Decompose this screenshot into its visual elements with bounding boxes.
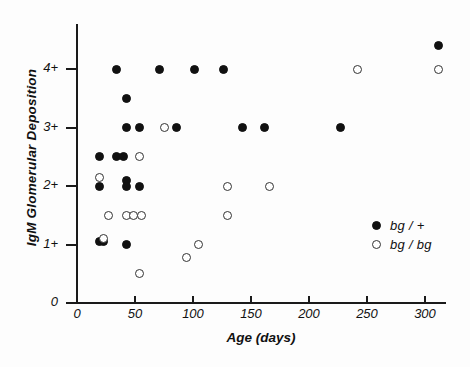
data-point-bg-plus [122,123,131,132]
legend: bg / + bg / bg [372,216,458,254]
y-tick-label: 0 [30,295,58,308]
x-tick-label: 100 [173,307,213,320]
legend-item-bg-plus: bg / + [372,216,458,235]
legend-label-bg-bg: bg / bg [390,237,432,252]
x-tick [424,296,426,304]
y-tick [66,244,76,246]
x-tick [308,296,310,304]
x-tick-label: 0 [57,307,97,320]
data-point-bg-plus [238,123,247,132]
x-tick [192,296,194,304]
x-tick-label: 200 [289,307,329,320]
y-tick-label: 1+ [30,237,58,250]
data-point-bg-bg [160,123,169,132]
data-point-bg-plus [122,94,131,103]
data-point-bg-plus [172,123,181,132]
data-point-bg-plus [135,123,144,132]
data-point-bg-plus [122,182,131,191]
data-point-bg-plus [336,123,345,132]
legend-item-bg-bg: bg / bg [372,235,458,254]
data-point-bg-plus [122,240,131,249]
x-tick-label: 300 [405,307,445,320]
y-tick [66,302,76,304]
x-tick [76,296,78,304]
legend-label-bg-plus: bg / + [390,218,425,233]
y-axis-line [76,24,78,304]
x-tick-label: 150 [231,307,271,320]
data-point-bg-plus [95,152,104,161]
filled-circle-icon [372,221,381,230]
y-tick [66,185,76,187]
data-point-bg-plus [434,41,443,50]
data-point-bg-bg [135,152,144,161]
y-tick [66,127,76,129]
open-circle-icon [372,240,381,249]
x-tick-label: 250 [347,307,387,320]
scatter-plot-figure: IgM Glomerular Deposition Age (days) 01+… [0,0,470,367]
data-point-bg-plus [155,65,164,74]
data-point-bg-plus [112,65,121,74]
data-point-bg-bg [223,211,232,220]
data-point-bg-bg [104,211,113,220]
data-point-bg-bg [434,65,443,74]
x-tick-label: 50 [115,307,155,320]
data-point-bg-plus [119,152,128,161]
data-point-bg-bg [194,240,203,249]
y-tick [66,68,76,70]
data-point-bg-bg [182,253,191,262]
data-point-bg-plus [95,182,104,191]
data-point-bg-plus [219,65,228,74]
data-point-bg-bg [223,182,232,191]
x-tick [366,296,368,304]
x-axis-title: Age (days) [76,330,446,345]
data-point-bg-bg [265,182,274,191]
data-point-bg-plus [190,65,199,74]
data-point-bg-plus [260,123,269,132]
data-point-bg-bg [135,269,144,278]
x-tick [134,296,136,304]
data-point-bg-bg [95,173,104,182]
x-tick [250,296,252,304]
data-point-bg-plus [135,182,144,191]
y-tick-label: 2+ [30,178,58,191]
y-tick-label: 4+ [30,61,58,74]
x-axis-line [76,302,446,304]
data-point-bg-bg [137,211,146,220]
data-point-bg-bg [353,65,362,74]
y-tick-label: 3+ [30,120,58,133]
